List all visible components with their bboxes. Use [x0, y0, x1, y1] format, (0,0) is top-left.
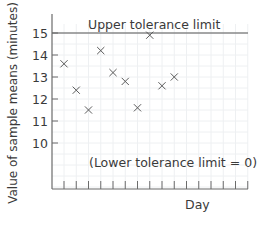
y-tick-label: 12 [32, 92, 48, 107]
y-tick-label: 10 [32, 136, 48, 151]
x-axis-ticks [64, 181, 248, 189]
y-tick-label: 11 [32, 114, 48, 129]
control-chart: Upper tolerance limit 101112131415 Value… [0, 0, 264, 227]
x-axis-label: Day [185, 197, 210, 212]
y-axis-label: Value of sample means (minutes) [6, 2, 20, 204]
y-tick-label: 13 [32, 70, 48, 85]
y-tick-label: 15 [32, 26, 48, 41]
lower-tolerance-annotation: (Lower tolerance limit = 0) [89, 155, 257, 170]
upper-tolerance-limit-label: Upper tolerance limit [88, 17, 220, 32]
y-tick-label: 14 [32, 48, 48, 63]
